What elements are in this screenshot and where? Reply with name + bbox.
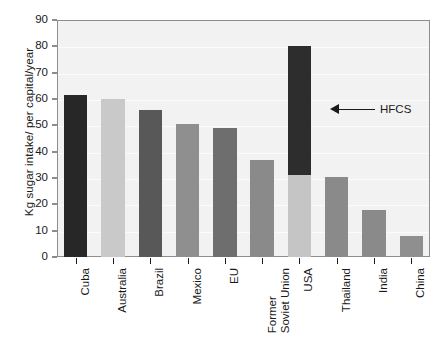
bar-group[interactable] bbox=[64, 20, 87, 257]
x-axis-tick-mark bbox=[374, 258, 375, 264]
bar-group[interactable] bbox=[362, 20, 385, 257]
x-axis-tick-label: Australia bbox=[117, 268, 129, 313]
y-axis-tick-label: 30 bbox=[0, 172, 48, 184]
x-axis-tick-mark bbox=[299, 258, 300, 264]
x-axis-tick-mark bbox=[76, 258, 77, 264]
bar-group[interactable] bbox=[101, 20, 124, 257]
y-axis-tick-label: 60 bbox=[0, 93, 48, 105]
bar-group[interactable] bbox=[176, 20, 199, 257]
x-axis-tick-label: Cuba bbox=[80, 268, 92, 296]
bar[interactable] bbox=[362, 210, 385, 257]
x-axis-tick-label: China bbox=[415, 268, 427, 298]
x-axis-tick-mark bbox=[225, 258, 226, 264]
usa-hfcs-segment[interactable] bbox=[288, 46, 311, 175]
bar[interactable] bbox=[400, 236, 423, 257]
y-axis-tick-label: 10 bbox=[0, 225, 48, 237]
bar[interactable] bbox=[64, 95, 87, 257]
bar[interactable] bbox=[250, 160, 273, 257]
bar[interactable] bbox=[325, 177, 348, 257]
y-axis-tick-label: 90 bbox=[0, 14, 48, 26]
x-axis-tick-mark bbox=[150, 258, 151, 264]
x-axis-tick-label: FormerSoviet Union bbox=[266, 268, 291, 333]
x-axis-tick-label: India bbox=[378, 268, 390, 293]
bar-group[interactable] bbox=[250, 20, 273, 257]
bar[interactable] bbox=[139, 110, 162, 257]
hfcs-annotation-label: HFCS bbox=[380, 103, 411, 115]
x-axis-tick-mark bbox=[262, 258, 263, 264]
bar-group[interactable] bbox=[139, 20, 162, 257]
x-axis-tick-label: Thailand bbox=[341, 268, 353, 312]
y-axis-tick-label: 0 bbox=[0, 251, 48, 263]
sugar-intake-bar-chart: Kg sugar intake/ per capital/year 010203… bbox=[0, 0, 448, 341]
y-axis-tick-label: 80 bbox=[0, 41, 48, 53]
bar[interactable] bbox=[288, 175, 311, 257]
y-axis-tick-label: 20 bbox=[0, 199, 48, 211]
x-axis-tick-label: USA bbox=[303, 268, 315, 292]
bars-layer bbox=[57, 20, 430, 257]
x-axis-tick-mark bbox=[337, 258, 338, 264]
hfcs-annotation: HFCS bbox=[330, 103, 411, 115]
x-axis-tick-label: Brazil bbox=[154, 268, 166, 297]
arrow-left-icon bbox=[330, 103, 375, 115]
bar[interactable] bbox=[213, 128, 236, 257]
bar-group[interactable] bbox=[288, 20, 311, 257]
bar-group[interactable] bbox=[213, 20, 236, 257]
bar-group[interactable] bbox=[325, 20, 348, 257]
x-axis-tick-label: Mexico bbox=[192, 268, 204, 304]
y-axis-tick-label: 40 bbox=[0, 146, 48, 158]
bar[interactable] bbox=[101, 99, 124, 257]
y-axis-tick-label: 70 bbox=[0, 67, 48, 79]
y-axis-tick-label: 50 bbox=[0, 120, 48, 132]
x-axis-tick-mark bbox=[411, 258, 412, 264]
bar[interactable] bbox=[176, 124, 199, 257]
x-axis-tick-mark bbox=[113, 258, 114, 264]
x-axis-tick-label: EU bbox=[229, 268, 241, 284]
x-axis-tick-mark bbox=[188, 258, 189, 264]
bar-group[interactable] bbox=[400, 20, 423, 257]
